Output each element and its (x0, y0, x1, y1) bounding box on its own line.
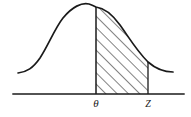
axis-label-z: Z (145, 99, 151, 109)
axis-label-theta: θ (93, 98, 98, 109)
shaded-region-hatch (94, 5, 152, 97)
shaded-area-group (94, 5, 152, 97)
normal-curve-figure: θ Z (0, 0, 191, 117)
